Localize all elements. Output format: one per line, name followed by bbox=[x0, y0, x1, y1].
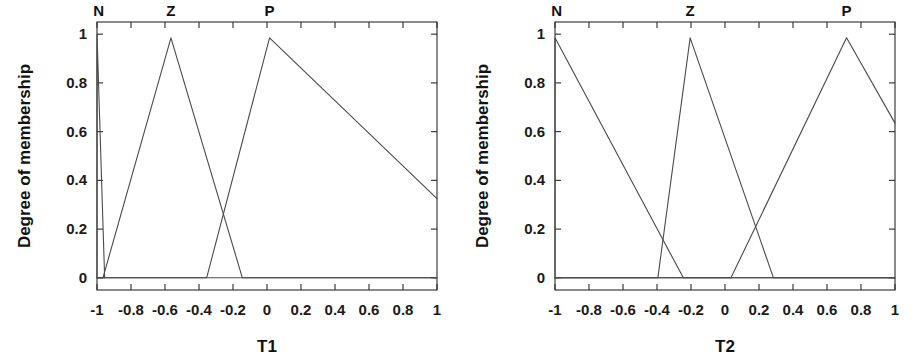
x-tick-label: 0.4 bbox=[325, 301, 347, 318]
x-tick-label: 0.2 bbox=[749, 301, 770, 318]
set-label-N: N bbox=[93, 2, 104, 19]
x-tick-label: -0.2 bbox=[220, 301, 246, 318]
y-tick-label: 0.6 bbox=[66, 123, 87, 140]
chart-svg-t1: -1-0.8-0.6-0.4-0.200.20.40.60.8100.20.40… bbox=[0, 0, 458, 364]
x-tick-label: 1 bbox=[891, 301, 899, 318]
x-tick-label: -0.4 bbox=[186, 301, 213, 318]
mf-curve-N bbox=[555, 38, 895, 278]
chart-panel-t1: -1-0.8-0.6-0.4-0.200.20.40.60.8100.20.40… bbox=[0, 0, 458, 364]
mf-curve-N bbox=[97, 34, 105, 278]
x-tick-label: -1 bbox=[548, 301, 561, 318]
x-tick-label: 0.8 bbox=[851, 301, 872, 318]
x-tick-label: 1 bbox=[433, 301, 441, 318]
figure-membership-functions: -1-0.8-0.6-0.4-0.200.20.40.60.8100.20.40… bbox=[0, 0, 916, 364]
y-tick-label: 0.8 bbox=[66, 74, 87, 91]
y-axis-title: Degree of membership bbox=[473, 64, 492, 248]
chart-svg-t2: -1-0.8-0.6-0.4-0.200.20.40.60.8100.20.40… bbox=[458, 0, 916, 364]
x-tick-label: 0.4 bbox=[783, 301, 805, 318]
x-axis-title: T1 bbox=[257, 337, 277, 356]
x-tick-label: -1 bbox=[90, 301, 103, 318]
x-tick-label: -0.8 bbox=[118, 301, 144, 318]
y-tick-label: 1 bbox=[79, 25, 87, 42]
y-tick-label: 0.4 bbox=[66, 171, 88, 188]
x-tick-label: 0.8 bbox=[393, 301, 414, 318]
set-label-Z: Z bbox=[166, 2, 175, 19]
y-tick-label: 1 bbox=[537, 25, 545, 42]
mf-curve-P bbox=[555, 38, 895, 278]
y-tick-label: 0.6 bbox=[524, 123, 545, 140]
x-tick-label: -0.8 bbox=[576, 301, 602, 318]
x-tick-label: 0.6 bbox=[359, 301, 380, 318]
x-tick-label: 0 bbox=[721, 301, 729, 318]
x-tick-label: -0.6 bbox=[610, 301, 636, 318]
y-tick-label: 0 bbox=[537, 269, 545, 286]
plot-frame-t1 bbox=[97, 22, 437, 290]
x-tick-label: -0.6 bbox=[152, 301, 178, 318]
x-tick-label: 0.6 bbox=[817, 301, 838, 318]
set-label-P: P bbox=[842, 2, 852, 19]
mf-curve-Z bbox=[555, 38, 895, 278]
y-axis-title: Degree of membership bbox=[15, 64, 34, 248]
mf-curve-P bbox=[97, 38, 437, 278]
set-label-P: P bbox=[265, 2, 275, 19]
x-tick-label: 0.2 bbox=[291, 301, 312, 318]
y-tick-label: 0.2 bbox=[66, 220, 87, 237]
set-label-Z: Z bbox=[686, 2, 695, 19]
x-tick-label: -0.2 bbox=[678, 301, 704, 318]
x-tick-label: -0.4 bbox=[644, 301, 671, 318]
y-tick-label: 0 bbox=[79, 269, 87, 286]
x-tick-label: 0 bbox=[263, 301, 271, 318]
y-tick-label: 0.8 bbox=[524, 74, 545, 91]
plot-frame-t2 bbox=[555, 22, 895, 290]
x-axis-title: T2 bbox=[715, 337, 735, 356]
y-tick-label: 0.4 bbox=[524, 171, 546, 188]
chart-panel-t2: -1-0.8-0.6-0.4-0.200.20.40.60.8100.20.40… bbox=[458, 0, 916, 364]
y-tick-label: 0.2 bbox=[524, 220, 545, 237]
set-label-N: N bbox=[551, 2, 562, 19]
mf-curve-Z bbox=[97, 38, 437, 278]
